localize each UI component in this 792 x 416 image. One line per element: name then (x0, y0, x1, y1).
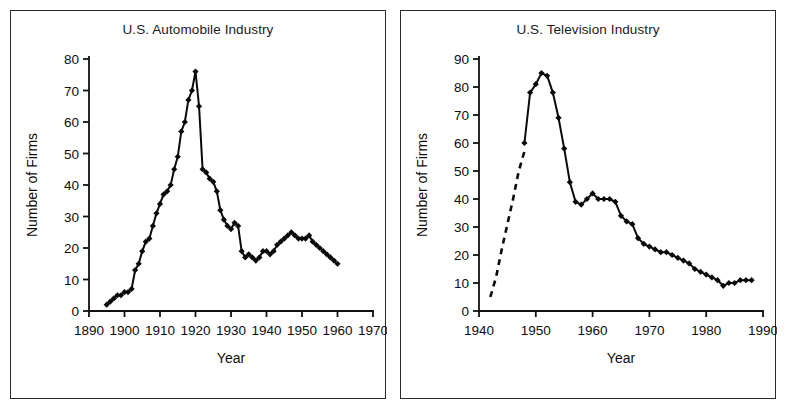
x-axis-tick-label: 1950 (287, 323, 317, 338)
x-axis-tick-label: 1890 (74, 323, 104, 338)
y-axis-tick-label: 60 (454, 136, 469, 151)
y-axis-tick-label: 80 (64, 52, 79, 67)
x-axis-tick-label: 1930 (216, 323, 246, 338)
data-point-marker (175, 154, 181, 160)
data-point-marker (189, 87, 195, 93)
data-point-marker (521, 140, 527, 146)
y-axis-tick-label: 0 (461, 304, 469, 319)
x-axis-tick-label: 1960 (322, 323, 352, 338)
chart-title-television: U.S. Television Industry (401, 22, 775, 37)
panel-automobile: U.S. Automobile Industry 010203040506070… (10, 10, 386, 399)
data-point-marker (550, 90, 556, 96)
y-axis-title: Number of Firms (414, 133, 430, 237)
y-axis-tick-label: 30 (64, 210, 79, 225)
y-axis-tick-label: 0 (71, 304, 79, 319)
x-axis-tick-label: 1970 (358, 323, 387, 338)
data-point-marker (178, 128, 184, 134)
y-axis-tick-label: 20 (454, 248, 469, 263)
y-axis-tick-label: 10 (454, 276, 469, 291)
data-point-marker (217, 207, 223, 213)
x-axis-tick-label: 1900 (109, 323, 139, 338)
chart-axes (479, 57, 763, 311)
y-axis-tick-label: 50 (454, 164, 469, 179)
y-axis-tick-label: 80 (454, 80, 469, 95)
chart-title-automobile: U.S. Automobile Industry (11, 22, 385, 37)
y-axis-tick-label: 50 (64, 147, 79, 162)
x-axis-title: Year (607, 350, 636, 366)
data-point-marker (185, 97, 191, 103)
data-point-marker (171, 166, 177, 172)
data-point-marker (153, 210, 159, 216)
x-axis-tick-label: 1970 (634, 323, 664, 338)
data-point-marker (214, 188, 220, 194)
chart-plot-automobile: 0102030405060708018901900191019201930194… (11, 41, 387, 396)
y-axis-tick-label: 70 (64, 84, 79, 99)
chart-axes (89, 57, 373, 311)
data-point-marker (182, 119, 188, 125)
y-axis-title: Number of Firms (24, 133, 40, 237)
y-axis-tick-label: 40 (454, 192, 469, 207)
data-point-marker (743, 277, 749, 283)
data-point-marker (139, 248, 145, 254)
data-point-marker (561, 146, 567, 152)
x-axis-tick-label: 1920 (180, 323, 210, 338)
x-axis-title: Year (217, 350, 246, 366)
y-axis-tick-label: 10 (64, 273, 79, 288)
data-point-marker (555, 115, 561, 121)
y-axis-tick-label: 30 (454, 220, 469, 235)
data-point-marker (196, 103, 202, 109)
data-point-marker (157, 201, 163, 207)
x-axis-tick-label: 1950 (521, 323, 551, 338)
x-axis-tick-label: 1990 (748, 323, 777, 338)
y-axis-tick-label: 70 (454, 108, 469, 123)
y-axis-tick-label: 60 (64, 115, 79, 130)
x-axis-tick-label: 1980 (691, 323, 721, 338)
data-point-marker (192, 69, 198, 75)
data-point-marker (567, 179, 573, 185)
figure-container: U.S. Automobile Industry 010203040506070… (0, 0, 792, 399)
y-axis-tick-label: 20 (64, 241, 79, 256)
series-line (107, 72, 338, 305)
x-axis-tick-label: 1960 (578, 323, 608, 338)
series-line (524, 73, 751, 286)
x-axis-tick-label: 1910 (145, 323, 175, 338)
series-dashed-estimate (490, 151, 524, 297)
x-axis-tick-label: 1940 (464, 323, 494, 338)
data-point-marker (749, 277, 755, 283)
data-point-marker (601, 196, 607, 202)
y-axis-tick-label: 40 (64, 178, 79, 193)
y-axis-tick-label: 90 (454, 52, 469, 67)
data-point-marker (150, 223, 156, 229)
x-axis-tick-label: 1940 (251, 323, 281, 338)
chart-plot-television: 0102030405060708090194019501960197019801… (401, 41, 777, 396)
panel-television: U.S. Television Industry 010203040506070… (400, 10, 776, 399)
